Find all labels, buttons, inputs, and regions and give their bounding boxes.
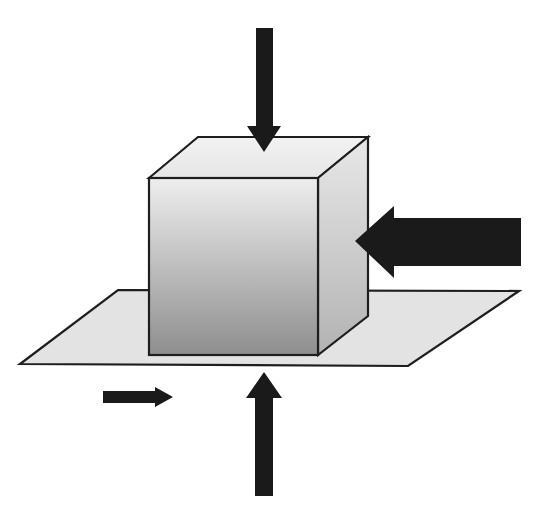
force-diagram: [0, 0, 536, 509]
cube-front-face: [149, 178, 318, 355]
arrow-right-icon: [103, 387, 173, 407]
arrow-left-icon: [355, 206, 521, 278]
arrow-up-icon: [246, 372, 282, 496]
cube-block: [149, 137, 368, 355]
arrow-down-icon: [247, 28, 281, 152]
